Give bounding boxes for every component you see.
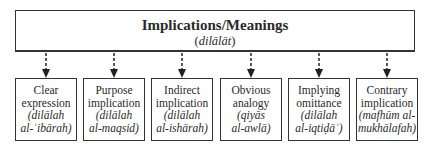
child-node-obvious-analogy: Obvious analogy (qiyās al-awlā) bbox=[220, 78, 282, 141]
child-node-clear-expression: Clear expression (dilālah al-ʿibārah) bbox=[15, 78, 77, 141]
node-label: implication bbox=[84, 97, 144, 110]
node-term: (mafhūm al- bbox=[357, 109, 417, 122]
node-term: (dilālah bbox=[16, 109, 76, 122]
node-term: al-ʿibārah) bbox=[16, 122, 76, 135]
child-node-purpose-implication: Purpose implication (dilālah al-maqsid) bbox=[83, 78, 145, 141]
root-subtitle: (dilālāt) bbox=[16, 34, 414, 48]
root-node: Implications/Meanings (dilālāt) bbox=[15, 10, 415, 52]
node-label: Implying bbox=[289, 84, 349, 97]
arrow-down-icon bbox=[109, 53, 119, 78]
node-label: Clear bbox=[16, 84, 76, 97]
node-label: Contrary bbox=[357, 84, 417, 97]
arrow-down-icon bbox=[382, 53, 392, 78]
child-node-indirect-implication: Indirect implication (dilālah al-ishārah… bbox=[151, 78, 213, 141]
arrow-down-icon bbox=[314, 53, 324, 78]
node-label: implication bbox=[152, 97, 212, 110]
node-label: Purpose bbox=[84, 84, 144, 97]
node-term: al-maqsid) bbox=[84, 122, 144, 135]
node-term: al-ishārah) bbox=[152, 122, 212, 135]
node-term: al-awlā) bbox=[221, 122, 281, 135]
node-term: (qiyās bbox=[221, 109, 281, 122]
node-label: expression bbox=[16, 97, 76, 110]
root-term: dilālāt bbox=[199, 34, 232, 48]
node-label: Indirect bbox=[152, 84, 212, 97]
node-term: (dilālah bbox=[84, 109, 144, 122]
node-term: (dilālah bbox=[152, 109, 212, 122]
child-node-contrary-implication: Contrary implication (mafhūm al- mukhāla… bbox=[356, 78, 418, 141]
node-term: al-iqtiḍāʾ) bbox=[289, 122, 349, 135]
node-label: Obvious bbox=[221, 84, 281, 97]
node-label: implication bbox=[357, 97, 417, 110]
arrow-down-icon bbox=[246, 53, 256, 78]
child-node-implying-omittance: Implying omittance (dilālah al-iqtiḍāʾ) bbox=[288, 78, 350, 141]
arrow-down-icon bbox=[177, 53, 187, 78]
root-title: Implications/Meanings bbox=[16, 17, 414, 34]
node-term: mukhālafah) bbox=[357, 122, 417, 135]
paren: ) bbox=[231, 34, 235, 48]
node-term: (dilālah bbox=[289, 109, 349, 122]
node-label: omittance bbox=[289, 97, 349, 110]
node-label: analogy bbox=[221, 97, 281, 110]
arrow-down-icon bbox=[41, 53, 51, 78]
